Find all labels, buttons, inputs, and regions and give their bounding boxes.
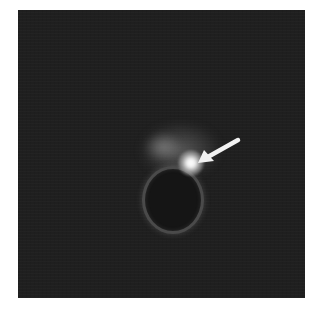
ring-structure	[142, 166, 204, 234]
arrow-icon	[194, 136, 244, 166]
micrograph-panel	[18, 10, 305, 298]
diffuse-fluorescence-left	[144, 132, 182, 162]
figure-caption	[20, 300, 170, 310]
